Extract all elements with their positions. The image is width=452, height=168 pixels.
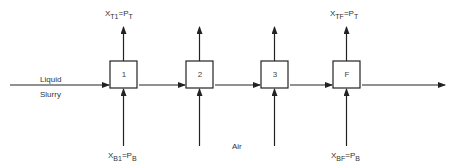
var-x-subscript: B1 [113,155,122,162]
stage-label-F: F [334,71,360,79]
var-p-subscript: B [355,155,360,162]
stage-label-1: 1 [111,71,137,79]
flow-diagram [0,0,452,168]
var-x-subscript: TF [335,13,344,20]
var-p-subscript: T [129,13,133,20]
var-p-subscript: T [354,13,358,20]
var-p-subscript: B [132,155,137,162]
bottom-label-stage-1: XB1=PB [108,152,137,162]
stage-label-2: 2 [187,71,213,79]
bottom-label-stage-F: XBF=PB [331,152,360,162]
feed-label-slurry: Slurry [40,91,61,99]
var-x-subscript: BF [336,155,345,162]
stage-label-3: 3 [262,71,288,79]
top-label-stage-1: XT1=PT [105,10,133,20]
top-label-stage-F: XTF=PT [330,10,358,20]
feed-label-liquid: Liquid [40,76,61,84]
var-x-subscript: T1 [110,13,118,20]
air-label: Air [232,143,242,151]
